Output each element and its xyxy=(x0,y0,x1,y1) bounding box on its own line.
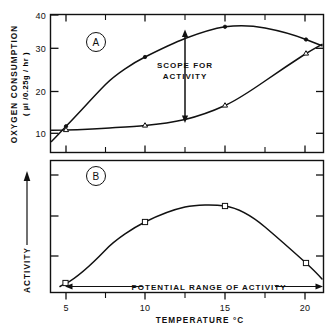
panel-b-bottom-ticks xyxy=(66,293,305,300)
panel-a: 40 30 20 10 xyxy=(10,11,324,153)
panel-b-right-ticks xyxy=(316,175,324,256)
panel-a-ytick-20: 20 xyxy=(36,87,46,97)
panel-a-yaxis-title-line2: ( µl /0.25g / hr ) xyxy=(21,52,30,116)
oxygen-consumption-activity-figure: 40 30 20 10 xyxy=(0,0,336,326)
panel-b-curve-activity xyxy=(60,205,322,287)
xaxis-title: TEMPERATURE °C xyxy=(156,316,245,325)
panel-b-letter-text: B xyxy=(92,171,99,182)
panel-b: 5 10 15 20 POTENTIAL RANGE OF ACTI xyxy=(23,161,324,314)
panel-a-ytick-40: 40 xyxy=(36,11,46,21)
panel-b-frame xyxy=(51,161,324,293)
panel-a-yaxis-title-line1: OXYGEN CONSUMPTION xyxy=(10,25,19,144)
panel-b-markers-activity xyxy=(63,203,309,285)
xtick-5: 5 xyxy=(63,303,68,313)
panel-a-y-ticks xyxy=(51,15,59,133)
panel-b-letter: B xyxy=(87,167,106,186)
xtick-15: 15 xyxy=(220,303,230,313)
figure-container: 40 30 20 10 xyxy=(0,0,336,326)
scope-for-activity-label-line2: ACTIVITY xyxy=(163,72,207,81)
panel-a-letter-text: A xyxy=(92,37,99,48)
panel-a-ytick-30: 30 xyxy=(36,44,46,54)
panel-a-right-ticks xyxy=(316,48,324,133)
potential-range-of-activity-label: POTENTIAL RANGE OF ACTIVITY xyxy=(131,283,286,292)
panel-b-y-ticks xyxy=(51,175,59,256)
panel-b-yaxis-title: ACTIVITY xyxy=(23,247,32,293)
scope-for-activity-label-line1: SCOPE FOR xyxy=(157,61,213,70)
panel-a-top-ticks xyxy=(66,15,305,22)
panel-a-letter: A xyxy=(87,33,106,52)
panel-a-bottom-ticks xyxy=(66,146,305,153)
xtick-20: 20 xyxy=(300,303,310,313)
xtick-10: 10 xyxy=(140,303,150,313)
activity-axis-arrow xyxy=(24,171,31,245)
panel-a-ytick-10: 10 xyxy=(36,129,46,139)
